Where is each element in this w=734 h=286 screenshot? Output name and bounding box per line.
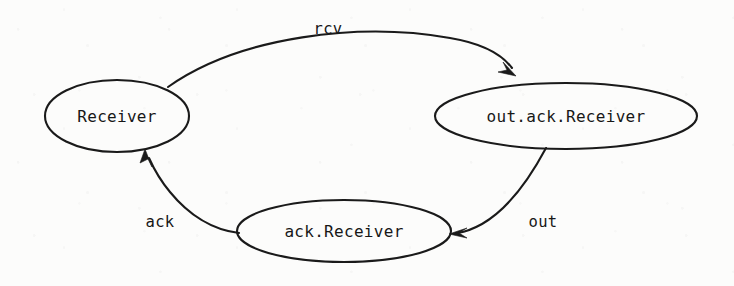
edge-ack-label: ack bbox=[146, 213, 175, 231]
edge-rcv: rcv bbox=[168, 20, 516, 88]
state-diagram: rcv out ack Receiver out.ack.Receiver ac… bbox=[0, 0, 734, 286]
node-ack-receiver-label: ack.Receiver bbox=[284, 222, 403, 241]
edge-rcv-path bbox=[168, 32, 512, 87]
node-receiver-label: Receiver bbox=[77, 107, 157, 126]
edge-rcv-label: rcv bbox=[314, 20, 343, 38]
node-ack-receiver[interactable]: ack.Receiver bbox=[237, 200, 451, 262]
edge-out-label: out bbox=[529, 213, 558, 231]
edge-ack-arrowhead bbox=[140, 149, 152, 167]
node-receiver[interactable]: Receiver bbox=[45, 80, 189, 152]
edge-out: out bbox=[449, 148, 557, 238]
edge-ack: ack bbox=[140, 149, 239, 233]
node-out-ack-receiver-label: out.ack.Receiver bbox=[487, 107, 646, 126]
node-out-ack-receiver[interactable]: out.ack.Receiver bbox=[435, 83, 697, 149]
edge-rcv-arrowhead bbox=[498, 62, 516, 76]
state-diagram-canvas: rcv out ack Receiver out.ack.Receiver ac… bbox=[0, 0, 734, 286]
